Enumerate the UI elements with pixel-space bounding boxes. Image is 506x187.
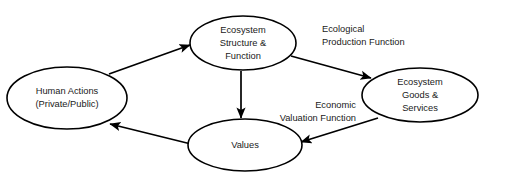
diagram-root: Human Actions (Private/Public) Ecosystem… [0,0,506,187]
edge-human-actions-to-ecosystem-structure [109,45,190,74]
edge-ecosystem-structure-to-ecosystem-goods [291,56,371,78]
human-actions-ellipse[interactable] [7,67,127,129]
human-actions-label-line2: (Private/Public) [35,99,98,109]
diagram-canvas: Human Actions (Private/Public) Ecosystem… [0,0,506,187]
node-values[interactable]: Values [188,119,302,171]
ecosystem-structure-function-label-line2: Structure & [220,38,267,48]
edge-label-economic-valuation-function: Economic Valuation Function [280,100,357,123]
ecosystem-structure-function-label-line3: Function [225,51,261,61]
ecosystem-goods-services-label-line2: Goods & [402,90,439,100]
ecosystem-goods-services-label-line3: Services [402,103,438,113]
ecosystem-structure-function-label-line1: Ecosystem [220,25,266,35]
ecological-production-function-line1: Ecological [322,24,364,34]
economic-valuation-function-line1: Economic [315,100,356,110]
ecological-production-function-line2: Production Function [322,37,405,47]
node-ecosystem-structure-function[interactable]: Ecosystem Structure & Function [190,16,296,70]
values-label-line1: Values [231,140,259,150]
human-actions-label-line1: Human Actions [36,86,99,96]
ecosystem-goods-services-label-line1: Ecosystem [397,77,443,87]
node-human-actions[interactable]: Human Actions (Private/Public) [7,67,127,129]
edge-values-to-human-actions [110,124,191,144]
economic-valuation-function-line2: Valuation Function [280,113,356,123]
edge-label-ecological-production-function: Ecological Production Function [322,24,405,47]
node-ecosystem-goods-services[interactable]: Ecosystem Goods & Services [362,68,478,122]
